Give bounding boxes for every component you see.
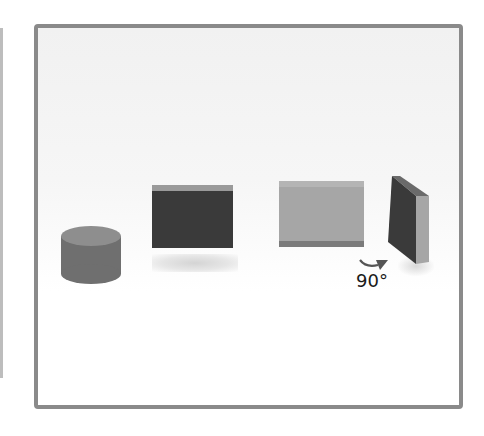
dark-block-shadow — [152, 254, 238, 272]
cylinder-top — [61, 226, 121, 246]
cylinder — [61, 226, 121, 284]
dark-block-face — [152, 191, 233, 248]
light-block-face — [279, 187, 364, 241]
rotated-slab — [386, 176, 430, 264]
left-edge-line — [0, 28, 3, 378]
cylinder-bottom — [61, 264, 121, 284]
rotation-label: 90° — [356, 270, 388, 291]
light-block — [279, 181, 364, 247]
rotated-slab-shape — [386, 176, 430, 264]
dark-block — [152, 185, 233, 248]
light-block-bottom — [279, 241, 364, 247]
